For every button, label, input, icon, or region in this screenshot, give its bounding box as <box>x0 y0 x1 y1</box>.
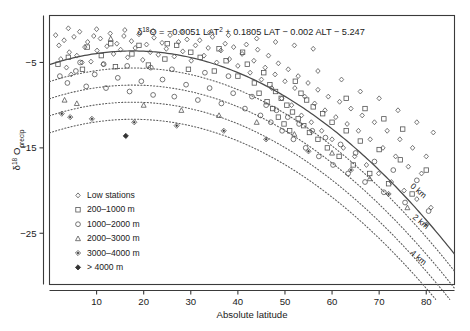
data-marker <box>290 110 294 114</box>
data-marker <box>122 34 126 39</box>
data-marker <box>193 43 197 48</box>
data-marker <box>151 93 156 98</box>
data-marker <box>273 40 277 45</box>
altitude-curve-2000 <box>50 85 455 288</box>
data-marker <box>402 188 406 193</box>
data-marker <box>174 123 179 128</box>
data-marker <box>326 94 330 99</box>
data-marker <box>185 37 189 42</box>
legend-label-0: Low stations <box>87 190 135 200</box>
x-tick-label: 10 <box>91 296 102 307</box>
data-marker <box>299 113 303 118</box>
data-marker <box>339 77 343 82</box>
data-marker <box>403 200 408 205</box>
data-marker <box>89 59 93 64</box>
data-marker <box>257 91 261 95</box>
data-marker <box>254 120 259 125</box>
x-axis: 1020304050607080 <box>50 291 455 307</box>
data-marker <box>330 137 334 142</box>
data-marker <box>306 149 311 154</box>
data-marker <box>292 132 297 137</box>
data-marker <box>262 71 266 75</box>
data-marker <box>386 182 390 186</box>
data-marker <box>160 77 165 82</box>
data-marker <box>345 121 349 126</box>
data-marker <box>352 154 356 159</box>
data-marker <box>252 81 256 85</box>
data-marker <box>92 34 96 39</box>
data-marker <box>115 75 120 80</box>
x-tick-label: 70 <box>374 296 385 307</box>
data-marker <box>316 87 320 92</box>
data-marker <box>316 154 321 159</box>
data-marker <box>368 137 372 142</box>
data-marker <box>330 150 335 155</box>
data-marker <box>132 120 137 125</box>
data-marker <box>231 91 236 96</box>
data-marker <box>372 159 377 164</box>
data-marker <box>95 48 99 53</box>
data-marker <box>67 50 71 55</box>
data-marker <box>109 41 113 45</box>
data-marker <box>410 145 414 150</box>
data-marker <box>312 101 316 106</box>
data-marker <box>259 77 263 82</box>
data-marker <box>125 55 129 60</box>
data-marker <box>398 137 402 142</box>
data-marker <box>184 82 189 87</box>
series-diamond-filled <box>123 133 128 138</box>
x-tick-label: 20 <box>138 296 149 307</box>
data-marker <box>207 86 212 91</box>
data-marker <box>227 57 231 62</box>
data-marker <box>285 115 290 120</box>
data-marker <box>165 41 169 45</box>
data-marker <box>94 27 98 32</box>
data-marker <box>360 113 364 118</box>
data-marker <box>393 154 397 159</box>
data-marker <box>98 36 102 41</box>
data-marker <box>337 154 341 158</box>
data-marker <box>255 47 259 52</box>
data-marker <box>57 74 62 79</box>
data-marker <box>415 120 419 125</box>
data-marker <box>415 197 419 202</box>
x-tick-label: 40 <box>233 296 244 307</box>
data-marker <box>292 43 296 48</box>
data-marker <box>65 81 70 86</box>
data-marker <box>160 40 164 45</box>
data-marker <box>330 120 334 124</box>
data-marker <box>273 72 277 77</box>
curve-label-0: 0 km <box>409 181 429 200</box>
data-marker <box>203 70 208 75</box>
data-marker <box>77 29 81 34</box>
data-marker <box>72 34 76 39</box>
data-marker <box>276 115 280 119</box>
data-marker <box>372 120 376 125</box>
data-marker <box>319 128 323 133</box>
data-marker <box>57 43 61 48</box>
data-marker <box>396 108 400 113</box>
curve-label-2000: 2 km <box>411 212 431 231</box>
data-marker <box>291 137 296 142</box>
data-marker <box>368 171 372 175</box>
data-marker <box>141 57 145 62</box>
data-marker <box>221 128 226 133</box>
data-marker <box>363 106 367 110</box>
data-marker <box>76 208 80 212</box>
data-marker <box>268 120 273 125</box>
data-marker <box>223 41 227 46</box>
data-marker <box>285 103 289 107</box>
plot-frame <box>50 16 455 285</box>
data-marker <box>364 162 368 167</box>
data-marker <box>325 146 329 150</box>
x-axis-title: Absolute latitude <box>217 309 288 320</box>
data-marker <box>363 180 368 185</box>
x-tick-label: 80 <box>421 296 432 307</box>
data-marker <box>163 57 167 61</box>
data-marker <box>189 58 193 63</box>
data-marker <box>348 167 353 172</box>
data-marker <box>212 69 216 73</box>
data-marker <box>76 222 81 227</box>
data-marker <box>338 142 343 147</box>
data-marker <box>85 40 89 45</box>
